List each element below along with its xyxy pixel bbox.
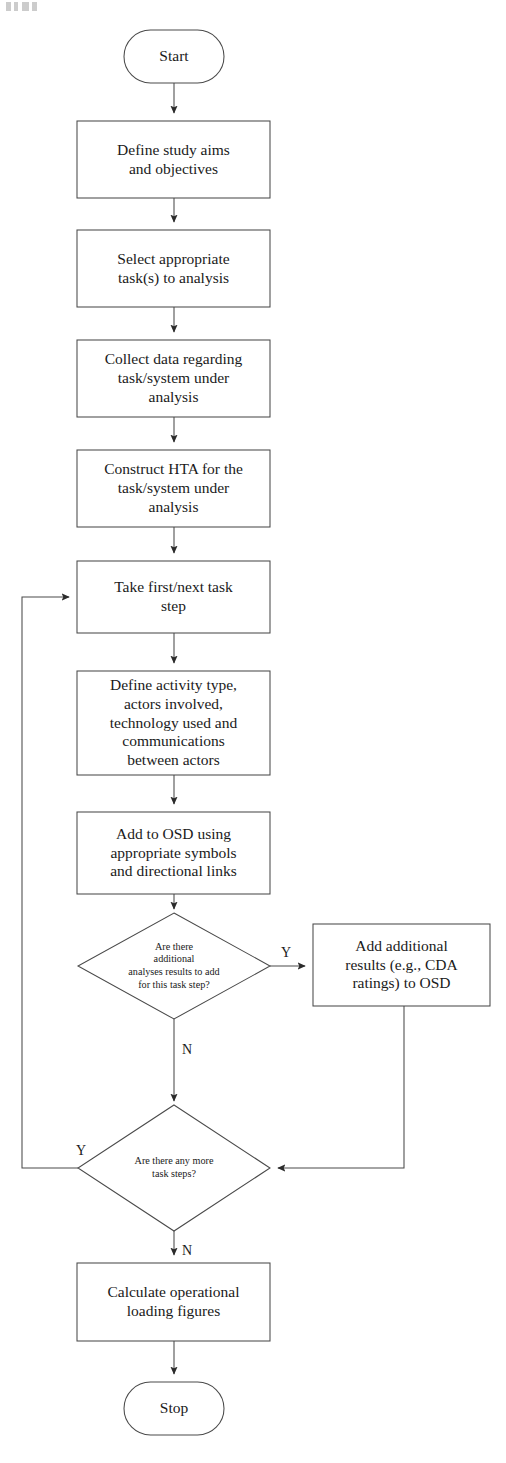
flowchart-graphics (0, 0, 506, 1463)
edge-decision-more-yes-loopback-to-take-task-step (22, 597, 78, 1168)
shape-stop (124, 1382, 224, 1435)
shape-add-additional-results (313, 924, 490, 1006)
shape-take-task-step (77, 561, 270, 633)
flowchart-canvas: Start Define study aims and objectives S… (0, 0, 506, 1463)
shape-calculate-loading (77, 1263, 270, 1341)
shape-collect-data (77, 340, 270, 417)
shape-define-aims (77, 121, 270, 198)
shape-start (124, 30, 224, 83)
shape-add-to-osd (77, 812, 270, 894)
shape-decision-additional-analyses (78, 913, 270, 1019)
shape-define-activity (77, 671, 270, 775)
node-shapes (77, 30, 490, 1435)
shape-construct-hta (77, 450, 270, 527)
shape-select-task (77, 230, 270, 307)
edge-add-results-loopback-to-decision-more (278, 1006, 404, 1168)
shape-decision-more-steps (78, 1105, 270, 1231)
